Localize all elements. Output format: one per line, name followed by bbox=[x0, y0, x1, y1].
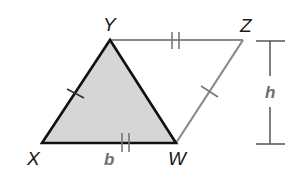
shaded-triangle-xyw bbox=[42, 40, 176, 143]
vertex-label-x: X bbox=[26, 148, 41, 169]
vertex-label-y: Y bbox=[103, 14, 117, 35]
base-label: b bbox=[104, 150, 114, 169]
parallelogram-diagram: Y Z X W b h bbox=[0, 0, 303, 192]
vertex-label-w: W bbox=[168, 148, 188, 169]
height-label: h bbox=[265, 83, 275, 102]
tick-mark-zw bbox=[201, 86, 218, 97]
vertex-label-z: Z bbox=[239, 15, 253, 36]
